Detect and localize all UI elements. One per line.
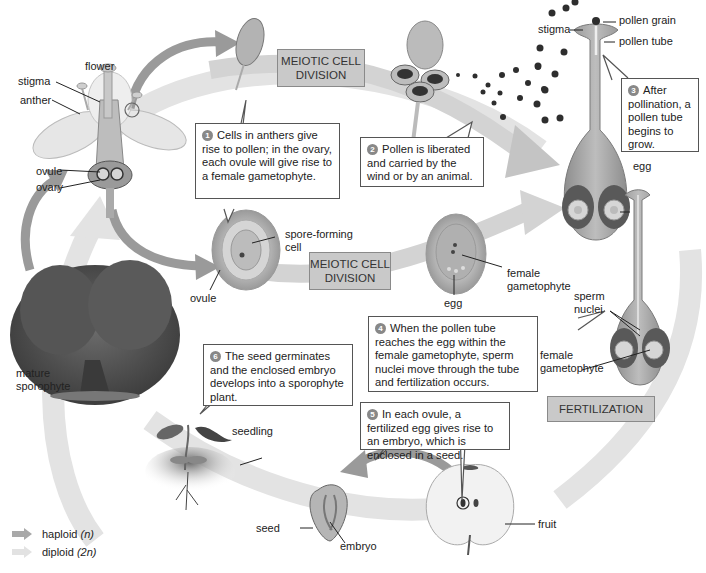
label-stigma-flower: stigma — [18, 75, 50, 88]
haploid-arrow-icon — [12, 528, 32, 540]
label-fruit: fruit — [538, 518, 556, 531]
legend-haploid-symbol: (n) — [81, 528, 94, 540]
callout-step-4: 4When the pollen tube reaches the egg wi… — [368, 316, 538, 392]
label-pollen-tube: pollen tube — [619, 35, 673, 48]
callout-step-5: 5In each ovule, a fertilized egg gives r… — [360, 402, 510, 450]
label-female-gametophyte-2: female gametophyte — [540, 349, 604, 375]
step-number-badge: 2 — [367, 144, 378, 155]
label-egg-2: egg — [633, 160, 651, 173]
label-anther: anther — [20, 94, 51, 107]
haploid-arrowhead-gametophyte — [520, 190, 565, 235]
label-sperm-nuclei: sperm nuclei — [574, 290, 605, 316]
legend: haploid (n) diploid (2n) — [12, 525, 96, 561]
label-ovule-meiosis: ovule — [190, 292, 216, 305]
stage-meiotic-cell-division-top: MEIOTIC CELL DIVISION — [277, 49, 365, 87]
callout-step-3: 3After pollination, a pollen tube begins… — [621, 78, 699, 152]
callout-step-2: 2Pollen is liberated and carried by the … — [360, 137, 484, 187]
legend-diploid-symbol: (2n) — [77, 546, 97, 558]
label-spore-forming-cell: spore-forming cell — [285, 228, 353, 254]
step-text: Cells in anthers give rise to pollen; in… — [202, 129, 332, 182]
diploid-arrow-icon — [12, 546, 32, 558]
label-stigma-pistil: stigma — [538, 23, 570, 36]
stage-fertilization: FERTILIZATION — [547, 396, 655, 422]
label-embryo: embryo — [340, 540, 377, 553]
legend-item-diploid: diploid (2n) — [12, 543, 96, 561]
step-text: The seed germinates and the enclosed emb… — [210, 350, 344, 403]
ovule-female-gametophyte — [426, 214, 486, 294]
label-female-gametophyte-1: female gametophyte — [507, 267, 571, 293]
step-text: When the pollen tube reaches the egg wit… — [375, 322, 519, 388]
arrow-flower-to-ovule — [112, 210, 200, 266]
fruit-illustration — [426, 464, 514, 555]
stage-meiotic-cell-division-middle: MEIOTIC CELL DIVISION — [309, 252, 391, 290]
seed-illustration — [310, 485, 347, 541]
ovule-spore-forming — [212, 210, 280, 290]
step-number-badge: 6 — [210, 351, 221, 362]
step-text: Pollen is liberated and carried by the w… — [367, 143, 473, 182]
step-number-badge: 4 — [375, 323, 386, 334]
label-ovary: ovary — [36, 181, 63, 194]
label-pollen-grain: pollen grain — [619, 14, 676, 27]
pistil-with-pollen-tube — [562, 17, 630, 240]
callout-step-1: 1Cells in anthers give rise to pollen; i… — [195, 123, 340, 199]
label-egg-1: egg — [444, 297, 462, 310]
step-number-badge: 5 — [367, 409, 378, 420]
label-ovule-flower: ovule — [36, 165, 62, 178]
label-flower: flower — [85, 60, 114, 73]
step-number-badge: 3 — [628, 85, 639, 96]
legend-item-haploid: haploid (n) — [12, 525, 96, 543]
label-mature-sporophyte: mature sporophyte — [16, 367, 70, 393]
step-number-badge: 1 — [202, 130, 213, 141]
label-seedling: seedling — [232, 425, 273, 438]
label-seed: seed — [256, 522, 280, 535]
legend-diploid-label: diploid — [42, 546, 74, 558]
legend-haploid-label: haploid — [42, 528, 77, 540]
callout-step-6: 6The seed germinates and the enclosed em… — [203, 344, 353, 406]
